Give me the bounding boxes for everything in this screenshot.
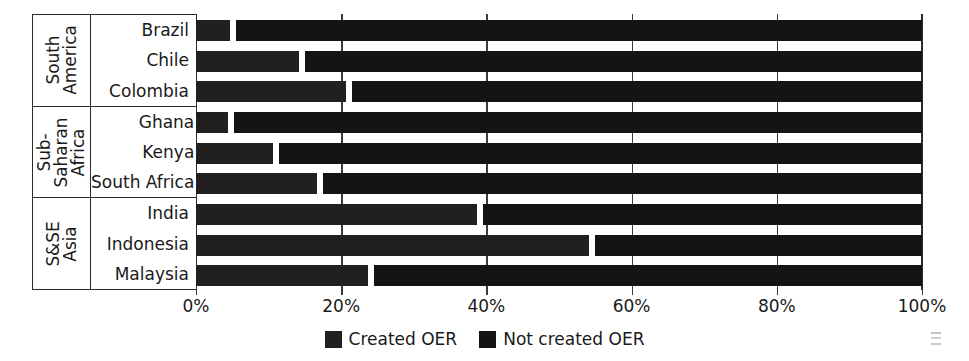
x-tick-label: 0% xyxy=(183,296,210,316)
stacked-bar-chart: South America Brazil Chile Colombia Sub-… xyxy=(0,0,969,361)
scan-artifact xyxy=(931,332,941,348)
legend-item[interactable]: Not created OER xyxy=(479,329,644,349)
category-label-block: South America Brazil Chile Colombia Sub-… xyxy=(32,14,197,290)
bar-segment-created-oer xyxy=(196,20,230,41)
bar-segment-not-created-oer xyxy=(234,112,922,133)
group-label-sub-saharan-africa-text: Sub- Saharan Africa xyxy=(36,117,87,187)
bar-segment-created-oer xyxy=(196,173,317,194)
x-tick-mark xyxy=(777,290,778,295)
category-label-brazil: Brazil xyxy=(142,20,189,40)
plot-area xyxy=(196,14,922,290)
x-tick-label: 60% xyxy=(613,296,651,316)
bar-segment-not-created-oer xyxy=(279,143,922,164)
category-names-sub-saharan-africa: Ghana Kenya South Africa xyxy=(91,107,201,198)
bar-segment-not-created-oer xyxy=(595,235,922,256)
category-label-chile: Chile xyxy=(146,50,189,70)
bar-segment-created-oer xyxy=(196,265,368,286)
bar-segment-not-created-oer xyxy=(323,173,922,194)
legend-item[interactable]: Created OER xyxy=(325,329,458,349)
x-tick-mark xyxy=(486,290,487,295)
group-label-south-america-text: South America xyxy=(45,26,79,95)
category-names-south-america: Brazil Chile Colombia xyxy=(91,15,196,106)
x-axis: 0%20%40%60%80%100% xyxy=(196,290,922,316)
category-label-colombia: Colombia xyxy=(109,81,189,101)
bar-row xyxy=(196,173,922,194)
category-label-south-africa: South Africa xyxy=(91,172,194,192)
bar-segment-created-oer xyxy=(196,235,589,256)
bar-segment-created-oer xyxy=(196,81,346,102)
group-row-south-america: South America Brazil Chile Colombia xyxy=(33,15,196,107)
bar-segment-not-created-oer xyxy=(374,265,922,286)
bar-row xyxy=(196,265,922,286)
x-tick-mark xyxy=(632,290,633,295)
group-row-sub-saharan-africa: Sub- Saharan Africa Ghana Kenya South Af… xyxy=(33,107,196,199)
category-label-ghana: Ghana xyxy=(139,112,195,132)
bar-row xyxy=(196,235,922,256)
x-tick-label: 100% xyxy=(898,296,947,316)
x-tick-mark xyxy=(341,290,342,295)
bar-row xyxy=(196,51,922,72)
bar-row xyxy=(196,143,922,164)
legend-label: Not created OER xyxy=(503,329,644,349)
x-tick-label: 20% xyxy=(322,296,360,316)
x-tick-mark xyxy=(196,290,197,295)
bar-row xyxy=(196,20,922,41)
group-label-sub-saharan-africa: Sub- Saharan Africa xyxy=(33,107,91,198)
group-label-s-and-se-asia: S&SE Asia xyxy=(33,198,91,289)
bar-segment-not-created-oer xyxy=(483,204,922,225)
bar-segment-not-created-oer xyxy=(236,20,922,41)
group-row-s-and-se-asia: S&SE Asia India Indonesia Malaysia xyxy=(33,198,196,289)
bar-segment-created-oer xyxy=(196,143,273,164)
group-label-south-america: South America xyxy=(33,15,91,106)
category-label-indonesia: Indonesia xyxy=(107,234,189,254)
x-tick-label: 80% xyxy=(758,296,796,316)
category-names-s-and-se-asia: India Indonesia Malaysia xyxy=(91,198,196,289)
bar-segment-created-oer xyxy=(196,51,299,72)
bar-row xyxy=(196,204,922,225)
bar-series-container xyxy=(196,14,922,290)
x-tick-mark xyxy=(922,290,923,295)
category-label-india: India xyxy=(147,203,189,223)
bar-row xyxy=(196,112,922,133)
x-tick-label: 40% xyxy=(467,296,505,316)
bar-segment-created-oer xyxy=(196,112,228,133)
category-label-malaysia: Malaysia xyxy=(115,264,189,284)
category-label-kenya: Kenya xyxy=(142,142,194,162)
legend-swatch-icon xyxy=(325,331,342,348)
group-label-s-and-se-asia-text: S&SE Asia xyxy=(45,221,79,266)
bar-row xyxy=(196,81,922,102)
chart-legend: Created OERNot created OER xyxy=(0,329,969,349)
bar-segment-not-created-oer xyxy=(352,81,922,102)
legend-swatch-icon xyxy=(479,331,496,348)
legend-label: Created OER xyxy=(349,329,458,349)
bar-segment-not-created-oer xyxy=(305,51,922,72)
bar-segment-created-oer xyxy=(196,204,477,225)
